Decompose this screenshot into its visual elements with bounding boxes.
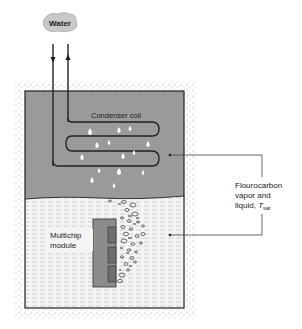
condenser-coil-label: Condenser coil xyxy=(91,111,141,120)
immersion-cooling-diagram: Water Condenser coil Multichip module xyxy=(0,0,302,329)
module-label-line1: Multichip xyxy=(50,231,82,240)
chip xyxy=(108,227,116,243)
fluid-label-text: liquid, xyxy=(235,201,258,210)
fluid-label-line3: liquid, Tsat xyxy=(235,201,271,211)
fluid-label-line2: vapor and xyxy=(235,191,271,200)
water-label: Water xyxy=(49,19,71,28)
vapor-region xyxy=(25,91,184,199)
module-label-line2: module xyxy=(50,241,77,250)
inlet-arrow-icon xyxy=(51,57,56,63)
chip xyxy=(108,247,116,263)
chip xyxy=(108,266,116,282)
fluid-label-line1: Flourocarbon xyxy=(235,181,282,190)
outlet-arrow-icon xyxy=(66,54,71,60)
fluid-label-subscript: sat xyxy=(263,205,271,211)
